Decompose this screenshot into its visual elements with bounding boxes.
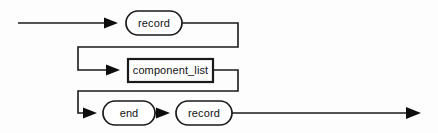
railroad-diagram-svg: record component_list end [0,0,438,133]
arrow-to-record-bottom-icon [156,108,170,119]
record-bottom-label: record [188,107,220,119]
arrow-exit-icon [406,107,421,119]
node-end[interactable]: end [103,101,155,125]
node-record-top[interactable]: record [126,11,182,35]
railroad-diagram-canvas: record component_list end [0,0,438,133]
end-label: end [120,107,139,119]
node-record-bottom[interactable]: record [176,101,232,125]
node-component-list[interactable]: component_list [128,59,213,82]
component-list-label: component_list [133,64,208,76]
arrow-to-component-list-icon [106,65,120,76]
exit-rail-group [232,107,421,119]
arrow-to-component-list-group [106,65,120,76]
arrow-to-end-group [83,108,97,119]
arrow-to-end-icon [83,108,97,119]
entry-rail-group [18,18,118,29]
rail-end-to-record [155,108,170,119]
arrow-to-record-top-icon [104,18,118,29]
record-top-label: record [138,17,170,29]
